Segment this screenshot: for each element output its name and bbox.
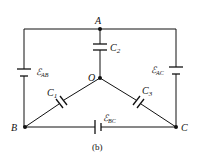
c2-label: C2 (110, 42, 121, 55)
capacitor-c2 (93, 44, 107, 50)
battery-eab (17, 69, 31, 76)
capacitor-c3 (133, 96, 144, 108)
circuit-diagram: A O B C C2 C1 C3 ℰAB ℰAC ℰBC (b) (0, 0, 200, 163)
node-a-dot (98, 27, 102, 31)
node-c-dot (174, 125, 178, 129)
node-b-label: B (11, 122, 17, 133)
node-a-label: A (94, 15, 102, 26)
battery-ebc (95, 120, 101, 134)
wire-c3-c (141, 104, 176, 127)
node-o-label: O (88, 72, 95, 83)
c3-label: C3 (142, 85, 153, 98)
eac-label: ℰAC (151, 65, 165, 76)
node-o-dot (98, 76, 102, 80)
wire-c1-b (25, 104, 59, 127)
c1-label: C1 (47, 87, 57, 100)
battery-eac (169, 67, 183, 74)
ebc-label: ℰBC (103, 113, 117, 124)
capacitor-c1 (56, 96, 67, 108)
figure-caption: (b) (92, 142, 103, 152)
node-b-dot (23, 125, 27, 129)
wire-o-c3 (100, 78, 136, 100)
node-c-label: C (181, 122, 188, 133)
eab-label: ℰAB (36, 67, 49, 78)
